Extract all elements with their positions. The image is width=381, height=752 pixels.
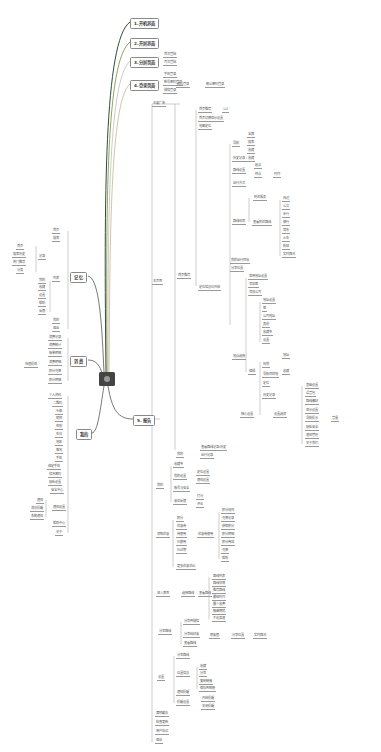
main-branch-node[interactable]: 我的 xyxy=(76,429,92,440)
topic-node[interactable]: 我的设置 xyxy=(173,474,187,480)
topic-node[interactable]: 热门推荐 xyxy=(12,260,26,266)
central-topic[interactable] xyxy=(99,372,115,386)
topic-node[interactable]: 地区 xyxy=(55,440,63,446)
topic-node[interactable]: 定位 xyxy=(262,381,270,387)
main-branch-node[interactable]: 1.开机界面 xyxy=(130,18,159,29)
main-branch-node[interactable]: 2.开屏界面 xyxy=(130,38,159,49)
topic-node[interactable]: 选择路线 xyxy=(181,591,195,597)
topic-node[interactable]: 待使用 xyxy=(176,532,187,538)
topic-node[interactable]: 首页推荐 xyxy=(198,107,212,113)
topic-node[interactable]: 分类 xyxy=(16,268,24,274)
topic-node[interactable]: 积分明细 xyxy=(221,532,235,538)
topic-node[interactable]: 不走高速 xyxy=(212,616,226,622)
topic-node[interactable]: 周边 xyxy=(282,196,290,202)
topic-node[interactable]: 核心设置 xyxy=(240,412,254,418)
topic-node[interactable]: 充值提现 xyxy=(24,362,38,368)
topic-node[interactable]: 规划 xyxy=(262,362,270,368)
topic-node[interactable]: 我的 xyxy=(156,483,164,489)
topic-node[interactable]: 通知设置 xyxy=(52,505,66,511)
topic-node[interactable]: 分享给好友 xyxy=(183,632,200,638)
topic-node[interactable]: 帮助 xyxy=(221,556,229,562)
topic-node[interactable]: 火车 xyxy=(282,236,290,242)
topic-node[interactable]: 设置选项 xyxy=(273,412,287,418)
topic-node[interactable]: 首页切换显示设置 xyxy=(198,116,224,122)
topic-node[interactable]: 退出 xyxy=(155,738,163,744)
topic-node[interactable]: 帮助中心 xyxy=(52,521,66,527)
topic-node[interactable]: 积分商城 xyxy=(221,540,235,546)
topic-node[interactable]: 分享路线 xyxy=(158,629,172,635)
topic-node[interactable]: 首页 xyxy=(16,244,24,250)
topic-node[interactable]: 搜索 xyxy=(52,236,60,242)
topic-node[interactable]: 已过期 xyxy=(176,548,187,554)
topic-node[interactable]: 公司地址 xyxy=(262,314,276,320)
topic-node[interactable]: 列表 xyxy=(52,276,60,282)
topic-node[interactable]: 性别 xyxy=(55,424,63,430)
topic-node[interactable]: 其他 xyxy=(262,322,270,328)
topic-node[interactable]: 检查更新 xyxy=(155,720,169,726)
topic-node[interactable]: 音量 xyxy=(331,416,339,422)
topic-node[interactable]: 地址设置 xyxy=(262,298,276,304)
topic-node[interactable]: 首次登陆 xyxy=(163,52,177,58)
topic-node[interactable]: 搜索历史 xyxy=(12,252,26,258)
main-branch-node[interactable]: 5. 报告 xyxy=(133,415,155,426)
topic-node[interactable]: 分享 xyxy=(199,671,207,677)
topic-node[interactable]: 设置 xyxy=(157,675,165,681)
topic-node[interactable]: 消息提醒 xyxy=(30,506,44,512)
topic-node[interactable]: 提醒设置 xyxy=(176,700,190,706)
topic-node[interactable]: 通知提醒 xyxy=(176,690,190,696)
topic-node[interactable]: 公交 xyxy=(282,204,290,210)
topic-node[interactable]: 最短时间 xyxy=(212,595,226,601)
topic-node[interactable]: 查看路线 xyxy=(198,591,212,597)
topic-node[interactable]: 添加家 xyxy=(248,282,259,288)
topic-node[interactable]: 步行 xyxy=(282,212,290,218)
topic-node[interactable]: 签名 xyxy=(55,448,63,454)
topic-node[interactable]: 位置信息 xyxy=(176,671,190,677)
topic-node[interactable]: 消费记录 xyxy=(48,335,62,341)
topic-node[interactable]: 朋友圈 xyxy=(209,633,220,639)
topic-node[interactable]: 保存到相册 xyxy=(199,686,216,692)
main-branch-node[interactable]: 4.登录页面 xyxy=(130,80,159,91)
topic-node[interactable]: 分享到微信 xyxy=(183,619,200,625)
topic-node[interactable]: 通知设置 xyxy=(196,478,210,484)
topic-node[interactable]: 消费明细 xyxy=(48,360,62,366)
topic-node[interactable]: 关于我们 xyxy=(305,441,319,447)
topic-node[interactable]: 实时路况 xyxy=(253,633,267,639)
topic-node[interactable]: 关闭提醒 xyxy=(201,704,215,710)
topic-node[interactable]: 生日 xyxy=(55,432,63,438)
topic-node[interactable]: 主要广告 xyxy=(152,101,166,107)
topic-node[interactable]: 微信登录 xyxy=(163,88,177,94)
topic-node[interactable]: 家 xyxy=(262,306,267,312)
topic-node[interactable]: 收藏夹 xyxy=(262,330,273,336)
topic-node[interactable]: 出行方式 xyxy=(232,181,246,187)
topic-node[interactable]: 地图定位 xyxy=(198,124,212,130)
topic-node[interactable]: 收藏 xyxy=(247,148,255,154)
topic-node[interactable]: 推荐路线 xyxy=(212,588,226,594)
topic-node[interactable]: 定位设置 xyxy=(196,470,210,476)
topic-node[interactable]: 积分明细 xyxy=(48,378,62,384)
topic-node[interactable]: 兑换记录 xyxy=(221,516,235,522)
topic-node[interactable]: 退出 xyxy=(52,326,60,332)
topic-node[interactable]: 我的出行目标 xyxy=(230,258,250,264)
topic-node[interactable]: 收藏 xyxy=(38,285,46,291)
topic-node[interactable]: 分享位置 xyxy=(231,633,245,639)
topic-node[interactable]: 首页 xyxy=(52,228,60,234)
topic-node[interactable]: 开启提醒 xyxy=(201,696,215,702)
topic-node[interactable]: 手机登录 xyxy=(163,72,177,78)
topic-node[interactable]: 更多优惠活动 xyxy=(176,564,196,570)
topic-node[interactable]: 系统通知 xyxy=(30,514,44,520)
topic-node[interactable]: 修改密码 xyxy=(48,472,62,478)
topic-node[interactable]: 优惠券使用 xyxy=(197,532,214,538)
topic-node[interactable]: 记录 xyxy=(38,254,46,260)
topic-node[interactable]: 帮助 xyxy=(38,301,46,307)
topic-node[interactable]: 显示设置 xyxy=(305,408,319,414)
topic-node[interactable]: 评论 xyxy=(196,502,204,508)
topic-node[interactable]: 关于 xyxy=(55,530,63,536)
topic-node[interactable]: 通知 xyxy=(36,498,44,504)
topic-node[interactable]: 航班 xyxy=(282,244,290,250)
topic-node[interactable]: 用户协议 xyxy=(155,729,169,735)
topic-node[interactable]: 驾车 xyxy=(282,228,290,234)
topic-node[interactable]: 绑定手机 xyxy=(47,464,61,470)
topic-node[interactable]: 躲避拥堵 xyxy=(212,609,226,615)
topic-node[interactable]: 复制链接 xyxy=(199,679,213,685)
topic-node[interactable]: 设置 xyxy=(38,293,46,299)
